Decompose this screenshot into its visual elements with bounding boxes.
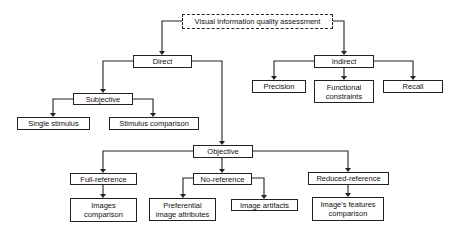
node-full-reference: Full-reference: [70, 173, 137, 185]
node-preferential-image-attributes: Preferential image attributes: [149, 198, 216, 221]
node-functional-constraints: Functional constraints: [314, 80, 374, 103]
node-subjective: Subjective: [73, 93, 133, 105]
node-no-reference: No-reference: [193, 173, 252, 185]
node-recall: Recall: [383, 80, 443, 93]
node-image-features-comparison: Image's features comparison: [312, 197, 384, 221]
node-direct: Direct: [133, 55, 192, 68]
node-root: Visual Information quality assessment: [182, 14, 333, 29]
node-single-stimulus: Single stimulus: [17, 117, 90, 130]
node-stimulus-comparison: Stimulus comparison: [109, 117, 199, 130]
quality-assessment-diagram: Visual Information quality assessment Di…: [0, 0, 460, 236]
node-reduced-reference: Reduced-reference: [308, 172, 389, 185]
node-indirect: Indirect: [314, 55, 374, 68]
node-images-comparison: Images comparison: [70, 198, 137, 222]
node-precision: Precision: [252, 80, 306, 93]
node-image-artifacts: Image artifacts: [231, 199, 298, 211]
node-objective: Objective: [193, 145, 253, 158]
